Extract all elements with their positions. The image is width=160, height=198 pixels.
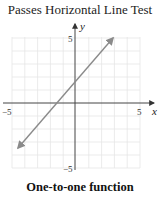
y-tick-neg: −5 (63, 164, 73, 174)
y-axis-label: y (79, 20, 85, 32)
chart-caption: One-to-one function (0, 180, 160, 195)
y-tick-pos: 5 (68, 34, 73, 44)
function-line (18, 38, 113, 148)
x-tick-pos: 5 (137, 107, 142, 117)
chart-plot: 5 −5 −5 5 y x (0, 0, 160, 198)
x-axis-label: x (151, 105, 157, 117)
x-tick-neg: −5 (2, 107, 12, 117)
